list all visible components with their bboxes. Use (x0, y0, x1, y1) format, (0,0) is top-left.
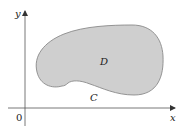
origin-label: 0 (16, 112, 22, 123)
y-axis-label: y (14, 8, 21, 19)
region-label-d: D (99, 56, 108, 67)
diagram-canvas: y x 0 D C (0, 0, 187, 138)
x-axis-label: x (170, 112, 176, 123)
boundary-label-c: C (90, 92, 98, 103)
